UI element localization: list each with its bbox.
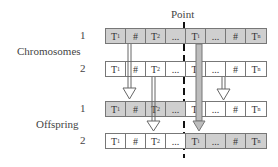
crossover-arrows (0, 0, 278, 167)
arrow-chrom2-to-offspring1-right-icon (217, 77, 230, 100)
arrow-chrom1-to-offspring2-right-icon (193, 44, 205, 131)
arrow-chrom2-to-offspring2-left-icon (147, 77, 160, 131)
arrow-chrom1-to-offspring1-left-icon (123, 44, 136, 99)
